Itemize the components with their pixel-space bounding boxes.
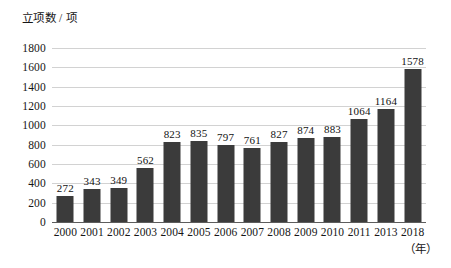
bar-slot: 1164: [373, 48, 400, 222]
bar-slot: 1064: [346, 48, 373, 222]
y-tick-label: 1400: [6, 81, 46, 93]
bar: [217, 145, 234, 222]
bar-value-label: 827: [270, 128, 287, 140]
bar-slot: 349: [105, 48, 132, 222]
y-tick-label: 1000: [6, 119, 46, 131]
bar-slot: 874: [292, 48, 319, 222]
bar: [57, 196, 74, 222]
bar-slot: 272: [52, 48, 79, 222]
bar-slot: 761: [239, 48, 266, 222]
x-axis-baseline: [52, 222, 426, 223]
bar: [377, 109, 394, 222]
y-tick-label: 1200: [6, 100, 46, 112]
y-tick-label: 1600: [6, 61, 46, 73]
y-tick-label: 0: [6, 216, 46, 228]
bar-value-label: 823: [164, 128, 181, 140]
bar: [84, 189, 101, 222]
bar-slot: 827: [266, 48, 293, 222]
bar: [164, 142, 181, 222]
bar-slot: 797: [212, 48, 239, 222]
bar-value-label: 343: [83, 175, 100, 187]
bar: [297, 138, 314, 222]
bar-value-label: 874: [297, 124, 314, 136]
y-tick-label: 400: [6, 177, 46, 189]
bar: [351, 119, 368, 222]
bar: [244, 148, 261, 222]
bar: [324, 137, 341, 222]
bar-slot: 562: [132, 48, 159, 222]
x-tick-label: 2018: [396, 226, 430, 239]
y-tick-label: 200: [6, 197, 46, 209]
bar-value-label: 272: [57, 182, 74, 194]
bar: [137, 168, 154, 222]
bar-value-label: 1064: [348, 105, 371, 117]
bar-slot: 883: [319, 48, 346, 222]
bar-value-label: 761: [244, 134, 261, 146]
bar-slot: 835: [186, 48, 213, 222]
bar-value-label: 1164: [375, 95, 397, 107]
bar-slot: 823: [159, 48, 186, 222]
bar-value-label: 883: [324, 123, 341, 135]
bar: [404, 69, 421, 222]
y-tick-label: 1800: [6, 42, 46, 54]
bar-slot: 1578: [399, 48, 426, 222]
bar-value-label: 349: [110, 174, 127, 186]
bar-series: 2723433495628238357977618278748831064116…: [52, 48, 426, 222]
x-axis-title: （年）: [404, 243, 437, 256]
bar-value-label: 797: [217, 131, 234, 143]
bar-value-label: 1578: [401, 55, 424, 67]
y-axis-title: 立项数 / 项: [22, 11, 77, 25]
bar-value-label: 562: [137, 154, 154, 166]
plot-area: 2723433495628238357977618278748831064116…: [52, 48, 426, 222]
bar-value-label: 835: [190, 127, 207, 139]
y-tick-label: 600: [6, 158, 46, 170]
bar: [110, 188, 127, 222]
bar-chart: 立项数 / 项 02004006008001000120014001600180…: [0, 0, 451, 268]
bar-slot: 343: [79, 48, 106, 222]
y-tick-label: 800: [6, 139, 46, 151]
bar: [271, 142, 288, 222]
bar: [190, 141, 207, 222]
